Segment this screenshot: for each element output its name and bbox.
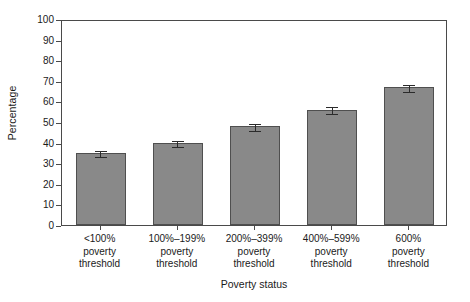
x-axis-tick-label-line: <100%: [61, 233, 138, 246]
y-axis-tick-mark: [56, 82, 61, 83]
x-axis-tick-label-line: 200%–399%: [215, 233, 292, 246]
x-axis-tick-label-line: threshold: [293, 258, 370, 271]
x-axis-tick-label: <100%povertythreshold: [61, 233, 138, 271]
y-axis-tick-label: 80: [22, 56, 54, 66]
y-axis-tick-mark: [56, 185, 61, 186]
error-bar-cap-top: [326, 107, 338, 108]
x-axis-tick-label: 100%–199%povertythreshold: [138, 233, 215, 271]
x-axis-tick-label-line: 600%: [370, 233, 447, 246]
error-bar-cap-top: [172, 141, 184, 142]
x-axis-tick-label: 200%–399%povertythreshold: [215, 233, 292, 271]
y-axis-tick-label: 50: [22, 118, 54, 128]
bar: [307, 110, 357, 225]
x-axis-tick-mark: [177, 226, 178, 230]
y-axis-tick-mark: [56, 20, 61, 21]
y-axis-tick-mark: [56, 144, 61, 145]
x-axis-tick-label-line: poverty: [138, 246, 215, 259]
plot-inner: [62, 21, 446, 225]
y-axis-tick-label: 20: [22, 180, 54, 190]
x-axis-tick-mark: [100, 226, 101, 230]
x-axis-tick-label: 600%povertythreshold: [370, 233, 447, 271]
x-axis-tick-label-line: threshold: [215, 258, 292, 271]
bar: [230, 126, 280, 225]
bar: [153, 143, 203, 225]
x-axis-tick-label-line: poverty: [370, 246, 447, 259]
x-axis-tick-label-line: poverty: [61, 246, 138, 259]
y-axis-tick-label: 10: [22, 200, 54, 210]
x-axis-tick-label-line: threshold: [370, 258, 447, 271]
bar: [384, 87, 434, 225]
y-axis-tick-label: 40: [22, 139, 54, 149]
y-axis-tick-label: 0: [22, 221, 54, 231]
x-axis-title: Poverty status: [61, 278, 447, 290]
y-axis-tick-label: 90: [22, 36, 54, 46]
y-axis-tick-mark: [56, 102, 61, 103]
x-axis-tick-mark: [331, 226, 332, 230]
y-axis-tick-mark: [56, 164, 61, 165]
bar-chart: Percentage 0102030405060708090100 <100%p…: [0, 0, 470, 302]
x-axis-tick-label-line: 400%–599%: [293, 233, 370, 246]
x-axis-tick-label-line: poverty: [293, 246, 370, 259]
y-axis-tick-mark: [56, 205, 61, 206]
y-axis-tick-label: 100: [22, 15, 54, 25]
y-axis-tick-mark: [56, 226, 61, 227]
y-axis-tick-labels: 0102030405060708090100: [22, 0, 54, 240]
x-axis-tick-mark: [408, 226, 409, 230]
x-axis-tick-label-line: threshold: [138, 258, 215, 271]
y-axis-tick-label: 70: [22, 77, 54, 87]
y-axis-tick-mark: [56, 123, 61, 124]
x-axis-tick-label-line: poverty: [215, 246, 292, 259]
x-axis-tick-label-line: threshold: [61, 258, 138, 271]
y-axis-tick-label: 30: [22, 159, 54, 169]
x-axis-tick-label-line: 100%–199%: [138, 233, 215, 246]
x-axis-tick-mark: [254, 226, 255, 230]
y-axis-title-label: Percentage: [6, 86, 18, 141]
y-axis-tick-mark: [56, 61, 61, 62]
y-axis-tick-mark: [56, 41, 61, 42]
x-axis-tick-label: 400%–599%povertythreshold: [293, 233, 370, 271]
bar: [76, 153, 126, 225]
y-axis-title: Percentage: [4, 0, 20, 226]
y-axis-tick-label: 60: [22, 97, 54, 107]
plot-area: [61, 20, 447, 226]
